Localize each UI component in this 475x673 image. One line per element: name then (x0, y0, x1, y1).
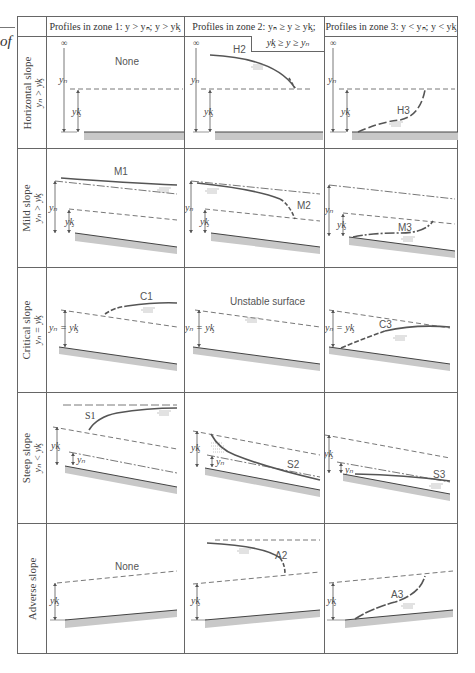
profile-label: M2 (297, 200, 311, 211)
profile-label: M1 (114, 166, 128, 177)
yc-label: yᶄ (325, 448, 333, 459)
water-surface-profiles-table: Profiles in zone 1: y > yₙ; y > yᶄ Profi… (17, 16, 458, 654)
profile-label: S1 (85, 410, 96, 421)
cell-adverse-zone2: yᶄ A2 (185, 524, 324, 654)
margin-text-fragment: of (0, 33, 12, 50)
row-label-critical: Critical slopeyₙ = yᶄ (18, 267, 46, 392)
yn-eq-yc-label: yₙ = yᶄ (325, 322, 355, 333)
yc-label: yᶄ (50, 440, 60, 451)
cell-steep-zone1: yᶄ yₙ S1 (47, 393, 184, 523)
yn-label: yₙ (58, 74, 68, 85)
cell-critical-zone3: yₙ = yᶄ C3 (325, 268, 458, 392)
header-zone2: Profiles in zone 2: yₙ ≥ y ≥ yᶄ; (184, 17, 324, 37)
row-label-horizontal: Horizontal slopeyₙ > yᶄ (18, 37, 46, 148)
yc-label: yᶄ (190, 595, 200, 606)
cell-horizontal-zone1: ∞ yₙ yᶄ None (47, 38, 184, 148)
cell-mild-zone2: yₙ yᶄ M2 (185, 149, 324, 267)
slope-name: Steep slope (20, 432, 32, 482)
header-zone1: Profiles in zone 1: y > yₙ; y > yᶄ (46, 17, 184, 37)
row-label-adverse: Adverse slope (18, 523, 46, 654)
profile-label: H3 (397, 105, 410, 116)
header-zone2-partial-rule (184, 36, 251, 37)
yc-label: yᶄ (49, 595, 59, 606)
slope-name: Horizontal slope (20, 56, 32, 129)
yn-label: yₙ (48, 202, 58, 213)
profile-label: None (115, 56, 139, 67)
header-zone3: Profiles in zone 3: y < yₙ; y < yᶄ (324, 17, 458, 37)
yn-label: yₙ (185, 202, 194, 213)
cell-steep-zone2: yᶄ yₙ S2 (185, 393, 324, 523)
yn-label: yₙ (325, 204, 334, 215)
cell-mild-zone1: yₙ yᶄ M1 (47, 149, 184, 267)
yc-label: yᶄ (199, 216, 209, 227)
cell-adverse-zone1: yᶄ None (47, 524, 184, 654)
yc-label: yᶄ (190, 442, 200, 453)
yn-label: yₙ (215, 456, 225, 467)
slope-condition: yₙ > yᶄ (32, 184, 44, 231)
profile-label: C1 (140, 291, 153, 302)
infinity-symbol: ∞ (61, 38, 67, 48)
yn-label: yₙ (327, 74, 337, 85)
row-label-steep: Steep slopeyₙ < yᶄ (18, 392, 46, 523)
slope-name: Adverse slope (26, 557, 38, 620)
profile-label: None (115, 561, 139, 572)
yc-label: yᶄ (203, 106, 213, 117)
yn-label: yₙ (76, 454, 86, 465)
yn-label: yₙ (344, 464, 354, 475)
profile-label: H2 (233, 44, 246, 55)
profile-label: M3 (398, 222, 412, 233)
yn-eq-yc-label: yₙ = yᶄ (48, 322, 79, 333)
cell-critical-zone1: yₙ = yᶄ C1 (47, 268, 184, 392)
cell-adverse-zone3: yᶄ A3 (325, 524, 458, 654)
cell-horizontal-zone3: ∞ yₙ yᶄ H3 (325, 38, 458, 148)
yc-label: yᶄ (64, 216, 74, 227)
yn-eq-yc-label: yₙ = yᶄ (185, 322, 215, 333)
cell-horizontal-zone2: ∞ yₙ yᶄ H2 (185, 38, 324, 148)
infinity-symbol: ∞ (330, 38, 336, 48)
yn-label: yₙ (190, 74, 200, 85)
profile-label: S2 (287, 459, 300, 470)
yc-label: yᶄ (326, 595, 336, 606)
slope-name: Critical slope (20, 300, 32, 359)
yc-label: yᶄ (340, 106, 350, 117)
header-corner (18, 17, 46, 37)
margin-rule (0, 27, 15, 28)
profile-label: Unstable surface (230, 296, 305, 307)
infinity-symbol: ∞ (193, 38, 199, 48)
row-label-mild: Mild slopeyₙ > yᶄ (18, 148, 46, 267)
slope-condition: yₙ = yᶄ (32, 300, 44, 359)
slope-condition: yₙ < yᶄ (32, 432, 44, 482)
cell-critical-zone2: yₙ = yᶄ Unstable surface (185, 268, 324, 392)
profile-label: A3 (391, 589, 404, 600)
slope-condition: yₙ > yᶄ (32, 56, 44, 129)
cell-mild-zone3: yₙ yᶄ M3 (325, 149, 458, 267)
profile-label: A2 (275, 550, 288, 561)
profile-label: C3 (379, 319, 392, 330)
profile-label: S3 (433, 469, 446, 480)
yc-label: yᶄ (336, 219, 346, 230)
cell-steep-zone3: yᶄ yₙ S3 (325, 393, 458, 523)
slope-name: Mild slope (20, 184, 32, 231)
yc-label: yᶄ (71, 106, 81, 117)
